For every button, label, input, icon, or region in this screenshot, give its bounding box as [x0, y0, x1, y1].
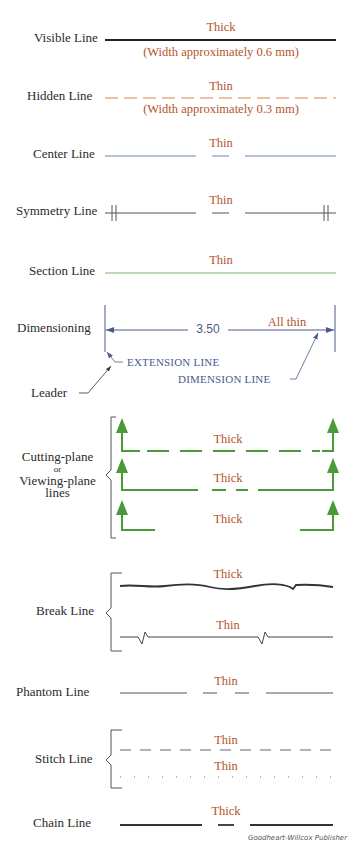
stitch-line-note-dashed: Thin — [214, 733, 238, 748]
cutting-plane-brace — [106, 417, 116, 538]
section-line-note: Thin — [209, 253, 233, 268]
phantom-line-note: Thin — [214, 674, 238, 689]
stitch-line-brace — [106, 730, 122, 788]
line-types-diagram — [0, 0, 353, 847]
break-line-thin — [120, 632, 333, 644]
hidden-line-label: Hidden Line — [27, 88, 92, 104]
hidden-line-note-width: (Width approximately 0.3 mm) — [143, 102, 299, 117]
chain-line-note: Thick — [211, 804, 240, 819]
break-line-note-thin: Thin — [216, 618, 240, 633]
publisher-credit: Goodheart-Willcox Publisher — [248, 834, 347, 842]
break-line-brace — [106, 573, 122, 651]
visible-line-note-thick: Thick — [206, 20, 235, 35]
cutting-plane-note-1: Thick — [213, 432, 242, 447]
stitch-line-label: Stitch Line — [35, 751, 92, 767]
dimension-line-callout: DIMENSION LINE — [178, 373, 270, 385]
visible-line-note-width: (Width approximately 0.6 mm) — [143, 45, 299, 60]
cutting-plane-label-line4: lines — [10, 487, 105, 499]
dimensioning-note: All thin — [268, 315, 307, 330]
section-line-label: Section Line — [29, 263, 95, 279]
chain-line-label: Chain Line — [33, 815, 91, 831]
break-line-thick — [120, 584, 333, 589]
stitch-line-note-dotted: Thin — [214, 759, 238, 774]
visible-line-label: Visible Line — [34, 30, 98, 46]
leader-label: Leader — [31, 385, 67, 401]
cutting-plane-note-2: Thick — [213, 471, 242, 486]
symmetry-line-note: Thin — [209, 193, 233, 208]
cutting-plane-label-line1: Cutting-plane — [10, 451, 105, 463]
dimensioning-label: Dimensioning — [17, 320, 91, 336]
phantom-line-label: Phantom Line — [16, 684, 89, 700]
cutting-plane-label: Cutting-plane or Viewing-plane lines — [10, 451, 105, 499]
symmetry-line-label: Symmetry Line — [16, 203, 97, 219]
center-line-label: Center Line — [33, 146, 95, 162]
center-line-note: Thin — [209, 136, 233, 151]
break-line-label: Break Line — [36, 603, 94, 619]
hidden-line-note-thin: Thin — [209, 79, 233, 94]
extension-line-callout: EXTENSION LINE — [127, 356, 219, 368]
cutting-plane-note-3: Thick — [213, 512, 242, 527]
break-line-note-thick: Thick — [213, 567, 242, 582]
dimension-value: 3.50 — [196, 322, 219, 336]
